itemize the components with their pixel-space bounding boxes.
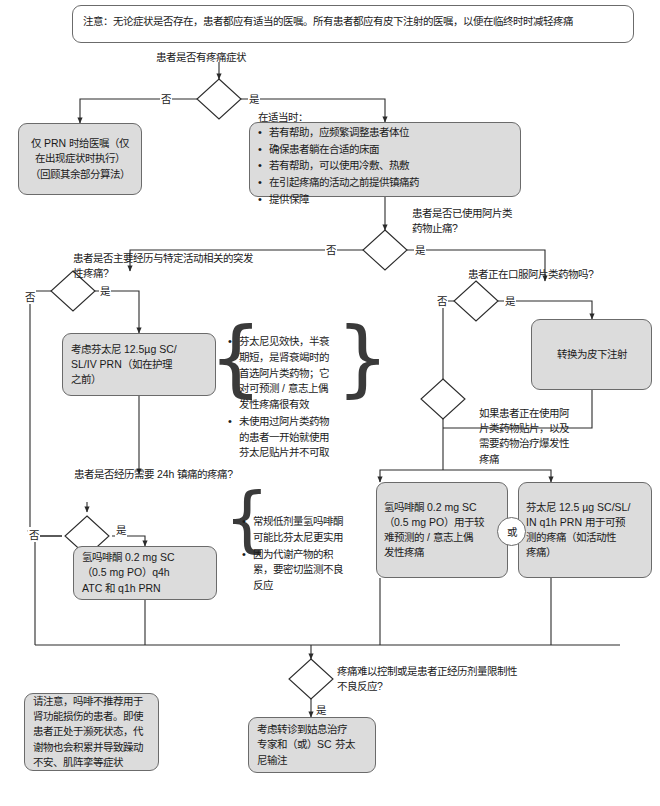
node-fentanyl-predictable-text: 芬太尼 12.5 µg SC/SL/ IN q1h PRN 用于可预 测的疼痛（…	[526, 500, 644, 561]
node-hydromorphone-breakthrough[interactable]: 氢吗啡酮 0.2 mg SC （0.5 mg PO）用于较 难预测的 / 意志上…	[376, 482, 508, 578]
question-4-label: 患者正在口服阿片类药物吗?	[468, 267, 660, 282]
node-hydromorphone-breakthrough-text: 氢吗啡酮 0.2 mg SC （0.5 mg PO）用于较 难预测的 / 意志上…	[384, 500, 500, 561]
node-referral[interactable]: 考虑转诊到姑息治疗 专家和（或）SC 芬太 尼输注	[248, 717, 376, 773]
edge-q4-yes: 是	[504, 293, 516, 308]
hydromorphone-note: 常规低剂量氢吗啡酮可能比芬太尼更实用	[242, 514, 346, 546]
edge-q1-yes: 是	[248, 91, 260, 106]
node-fentanyl-consider[interactable]: 考虑芬太尼 12.5µg SC/ SL/IV PRN（如在护理 之前）	[62, 333, 216, 396]
top-note-text: 注意：无论症状是否存在，患者都应有适当的医嘱。所有患者都应有皮下注射的医嘱，以便…	[83, 15, 573, 27]
comfort-items: 若有帮助，应频繁调整患者体位 确保患者躺在合适的床面 若有帮助，可以使用冷敷、热…	[258, 125, 512, 208]
question-7-label: 疼痛难以控制或是患者正经历剂量限制性 不良反应?	[337, 664, 637, 694]
hydromorphone-note-list: 常规低剂量氢吗啡酮可能比芬太尼更实用 因为代谢产物的积累，要密切监测不良反应	[242, 514, 346, 594]
edge-q6-no: 否	[28, 527, 40, 542]
or-badge-text: 或	[507, 524, 517, 539]
fentanyl-note-list: 芬太尼见效快，半衰期短，是肾衰竭时的首选阿片类药物；它对可预测 / 意志上偶发性…	[228, 334, 336, 461]
node-fentanyl-predictable[interactable]: 芬太尼 12.5 µg SC/SL/ IN q1h PRN 用于可预 测的疼痛（…	[518, 482, 652, 578]
or-badge: 或	[497, 517, 526, 546]
comfort-item-list: 若有帮助，应频繁调整患者体位 确保患者躺在合适的床面 若有帮助，可以使用冷敷、热…	[258, 125, 512, 208]
note-morphine-warning-text: 请注意，吗啡不推荐用于肾功能损伤的患者。即使患者正处于濒死状态，代谢物也会积累并…	[33, 694, 150, 770]
edge-q7-yes: 是	[315, 702, 327, 717]
comfort-item: 若有帮助，应频繁调整患者体位	[258, 125, 512, 141]
question-2-label: 患者是否已使用阿片类 药物止痛?	[412, 206, 572, 236]
brace-fentanyl-notes-right: }	[336, 326, 389, 392]
node-referral-text: 考虑转诊到姑息治疗 专家和（或）SC 芬太 尼输注	[257, 722, 367, 768]
node-fentanyl-consider-text: 考虑芬太尼 12.5µg SC/ SL/IV PRN（如在护理 之前）	[71, 342, 207, 388]
question-6-label: 患者是否经历需要 24h 镇痛的疼痛?	[74, 467, 354, 482]
node-prn-only-text: 仅 PRN 时给医嘱（仅 在出现症状时执行） （回顾其余部分算法）	[25, 136, 135, 182]
edge-q6-yes: 是	[115, 522, 127, 537]
comfort-item: 在引起疼痛的活动之前提供镇痛药	[258, 175, 512, 191]
question-1-label: 患者是否有疼痛症状	[156, 50, 376, 65]
edge-q1-no: 否	[160, 91, 172, 106]
flowchart-canvas: 注意：无论症状是否存在，患者都应有适当的医嘱。所有患者都应有皮下注射的医嘱，以便…	[0, 0, 660, 806]
comfort-item: 确保患者躺在合适的床面	[258, 142, 512, 158]
comfort-item: 若有帮助，可以使用冷敷、热敷	[258, 158, 512, 174]
hydromorphone-notes: 常规低剂量氢吗啡酮可能比芬太尼更实用 因为代谢产物的积累，要密切监测不良反应	[242, 514, 346, 595]
question-5-label: 如果患者正在使用阿 片类药物贴片，以及 需要药物治疗爆发性 疼痛	[479, 406, 609, 467]
fentanyl-note: 芬太尼见效快，半衰期短，是肾衰竭时的首选阿片类药物；它对可预测 / 意志上偶发性…	[228, 334, 336, 413]
edge-q3-no: 否	[24, 289, 36, 304]
fentanyl-note: 未使用过阿片类药物的患者一开始就使用芬太尼贴片并不可取	[228, 414, 336, 461]
node-hydromorphone-atc[interactable]: 氢吗啡酮 0.2 mg SC （0.5 mg PO）q4h ATC 和 q1h …	[73, 546, 217, 600]
node-convert-subcutaneous[interactable]: 转换为皮下注射	[531, 319, 652, 390]
node-comfort-measures[interactable]: 在适当时： 若有帮助，应频繁调整患者体位 确保患者躺在合适的床面 若有帮助，可以…	[249, 122, 521, 197]
node-prn-only[interactable]: 仅 PRN 时给医嘱（仅 在出现症状时执行） （回顾其余部分算法）	[18, 123, 142, 195]
hydromorphone-note: 因为代谢产物的积累，要密切监测不良反应	[242, 547, 346, 594]
edge-q4-no: 否	[436, 293, 448, 308]
node-convert-subcutaneous-text: 转换为皮下注射	[538, 347, 645, 362]
node-hydromorphone-atc-text: 氢吗啡酮 0.2 mg SC （0.5 mg PO）q4h ATC 和 q1h …	[82, 550, 208, 596]
fentanyl-notes: 芬太尼见效快，半衰期短，是肾衰竭时的首选阿片类药物；它对可预测 / 意志上偶发性…	[228, 334, 336, 462]
edge-q2-yes: 是	[414, 242, 426, 257]
top-note: 注意：无论症状是否存在，患者都应有适当的医嘱。所有患者都应有皮下注射的医嘱，以便…	[72, 5, 634, 43]
question-3-label: 患者是否主要经历与特定活动相关的突发 性疼痛?	[73, 251, 333, 281]
edge-q3-yes: 是	[99, 283, 111, 298]
comfort-heading: 在适当时：	[258, 110, 512, 124]
note-morphine-warning: 请注意，吗啡不推荐用于肾功能损伤的患者。即使患者正处于濒死状态，代谢物也会积累并…	[24, 693, 159, 771]
